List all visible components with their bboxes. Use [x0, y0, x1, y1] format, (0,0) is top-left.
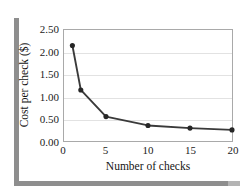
- y-axis-tick-label: 0.50: [25, 114, 59, 125]
- x-axis-tick-label: 20: [221, 145, 245, 156]
- data-markers: [70, 43, 235, 132]
- x-axis-tick-label: 0: [51, 145, 75, 156]
- y-axis-tick-label: 1.00: [25, 92, 59, 103]
- data-point-marker: [103, 114, 108, 119]
- x-axis-tick-label: 15: [179, 145, 203, 156]
- x-axis-tick-labels: 05101520: [63, 145, 233, 159]
- data-point-marker: [187, 126, 192, 131]
- plot-area: [63, 29, 233, 142]
- data-point-marker: [145, 123, 150, 128]
- y-axis-tick-label: 2.50: [25, 24, 59, 35]
- line-chart: 0.000.501.001.502.002.50 05101520 Number…: [0, 0, 248, 195]
- data-line: [72, 46, 232, 130]
- data-point-marker: [78, 87, 83, 92]
- data-point-marker: [229, 127, 234, 132]
- y-axis-title: Cost per check ($): [18, 43, 30, 128]
- x-axis-tick-label: 5: [94, 145, 118, 156]
- y-axis-tick-label: 1.50: [25, 69, 59, 80]
- data-series-layer: [64, 30, 232, 141]
- data-point-marker: [70, 43, 75, 48]
- y-axis-tick-label: 2.00: [25, 47, 59, 58]
- x-axis-title: Number of checks: [63, 160, 233, 172]
- x-axis-tick-label: 10: [136, 145, 160, 156]
